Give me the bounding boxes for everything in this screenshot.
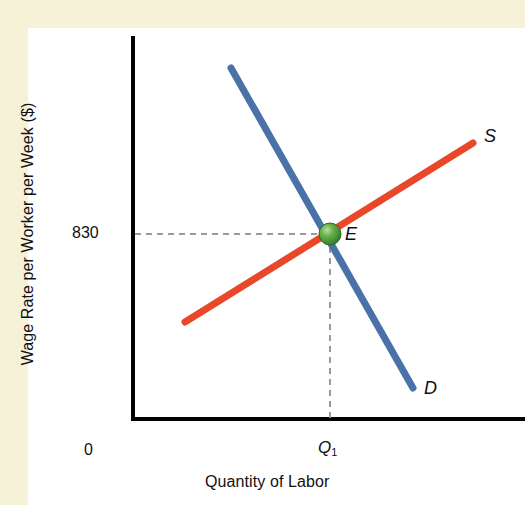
origin-label: 0 xyxy=(84,441,93,459)
economics-figure: Wage Rate per Worker per Week ($) Quanti… xyxy=(0,0,525,505)
supply-curve-label: S xyxy=(484,126,496,147)
y-axis-title: Wage Rate per Worker per Week ($) xyxy=(19,64,37,404)
equilibrium-point-marker xyxy=(319,223,341,245)
chart-svg xyxy=(0,0,525,505)
equilibrium-point-label: E xyxy=(345,224,357,245)
x-tick-subscript: 1 xyxy=(331,446,337,458)
demand-curve-label: D xyxy=(424,378,437,399)
x-tick-symbol: Q xyxy=(318,438,331,457)
y-axis-tick-label-830: 830 xyxy=(72,224,99,242)
x-axis-title: Quantity of Labor xyxy=(205,473,329,491)
x-axis-tick-label-q1: Q1 xyxy=(318,438,337,458)
